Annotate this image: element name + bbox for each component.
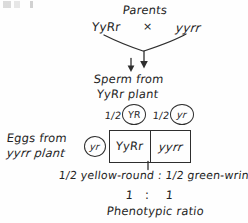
sperm-gamete-1-fraction: 1/2 [104,110,122,121]
sperm-gamete-2-fraction: 1/2 [152,110,170,121]
ratio-left: 1 [125,188,134,202]
genetics-punnett-diagram: Parents YyRr × yyrr Sperm from YyRr plan… [0,0,248,223]
egg-source-line2: yyrr plant [6,146,66,160]
sperm-gamete-2-allele: yr [177,110,188,120]
mother-genotype: YyRr [91,20,121,34]
ratio-colon: : [145,188,149,202]
sperm-source-line2: YyRr plant [96,87,159,101]
cross-arrowhead [140,61,148,69]
ratio-right: 1 [165,188,174,202]
ratio-caption: Phenotypic ratio [106,204,205,218]
cross-symbol: × [143,20,152,33]
punnett-square-divider [150,130,151,163]
punnett-cell-2: yyrr [158,140,184,154]
father-genotype: yyrr [175,21,202,35]
egg-source-line1: Eggs from [6,131,68,145]
egg-gamete-1-circle: yr [84,136,106,157]
egg-gamete-1-allele: yr [90,142,101,152]
parents-label: Parents [122,3,168,17]
sperm-gamete-1-allele: YR [127,110,141,120]
punnett-cell-1: YyRr [115,139,144,153]
cross-line-left [104,35,143,51]
sperm-gamete-2-circle: yr [170,104,194,125]
page-edge-artifact [3,1,37,8]
sperm-source-line1: Sperm from [93,72,165,86]
phenotype-ratio-text: 1/2 yellow-round : 1/2 green-wrinkled [58,169,248,182]
sperm-gamete-1-circle: YR [122,104,146,125]
cross-line-right [144,34,186,51]
